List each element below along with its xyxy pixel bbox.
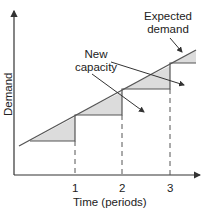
new-capacity-label-line1: New [68, 48, 124, 61]
y-axis-label: Demand [2, 76, 14, 116]
expected-demand-label-line1: Expected [138, 10, 198, 23]
expected-demand-arrow [170, 38, 182, 52]
expected-demand-label: Expected demand [138, 10, 198, 36]
new-capacity-label: New capacity [68, 48, 124, 74]
x-tick-1: 1 [72, 182, 78, 195]
new-capacity-label-line2: capacity [68, 61, 124, 74]
x-tick-3: 3 [167, 182, 173, 195]
x-tick-2: 2 [119, 182, 125, 195]
expected-demand-label-line2: demand [138, 23, 198, 36]
x-axis-label: Time (periods) [73, 196, 147, 209]
